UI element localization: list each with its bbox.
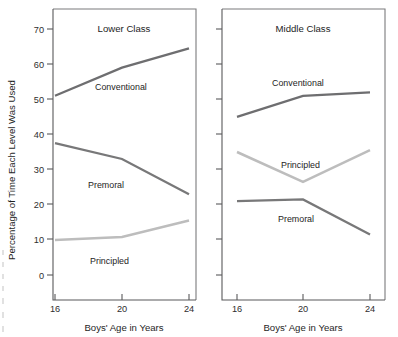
x-tick-labels-lower: 16 20 24 [50, 304, 194, 314]
y-tick-label: 30 [34, 165, 44, 175]
x-axis-title-middle: Boys' Age in Years [263, 322, 342, 333]
y-axis-title: Percentage of Time Each Level Was Used [6, 80, 17, 260]
panel-title-lower-class: Lower Class [98, 23, 151, 34]
y-tick-label: 50 [34, 95, 44, 105]
series-label-principled-middle: Principled [281, 160, 320, 170]
x-ticks-middle [237, 294, 370, 300]
x-tick-label: 24 [184, 304, 194, 314]
x-ticks-lower [55, 294, 189, 300]
y-tick-label: 20 [34, 200, 44, 210]
x-tick-label: 16 [232, 304, 242, 314]
scan-edge-artifacts [2, 250, 4, 332]
x-tick-label: 16 [50, 304, 60, 314]
series-label-conventional-lower: Conventional [95, 82, 147, 92]
x-axis-title-lower: Boys' Age in Years [84, 322, 163, 333]
series-line-conventional-middle [237, 92, 370, 117]
y-tick-label: 60 [34, 60, 44, 70]
panel-title-middle-class: Middle Class [276, 23, 331, 34]
x-tick-labels-middle: 16 20 24 [232, 304, 375, 314]
figure-container: Percentage of Time Each Level Was Used 7… [0, 0, 398, 337]
y-tick-label: 10 [34, 235, 44, 245]
series-label-premoral-middle: Premoral [278, 214, 314, 224]
chart-svg: Percentage of Time Each Level Was Used 7… [0, 0, 398, 337]
y-tick-labels-lower: 70 60 50 40 30 20 10 0 [34, 25, 44, 281]
panel-middle-class: 16 20 24 Middle Class Conventional Princ… [216, 9, 385, 333]
y-tick-label: 70 [34, 25, 44, 35]
y-ticks-middle [216, 29, 222, 275]
y-tick-label: 0 [39, 271, 44, 281]
series-label-principled-lower: Principled [90, 256, 129, 266]
x-tick-label: 24 [365, 304, 375, 314]
x-tick-label: 20 [117, 304, 127, 314]
x-tick-label: 20 [298, 304, 308, 314]
y-ticks-lower [47, 29, 53, 275]
series-label-premoral-lower: Premoral [88, 180, 124, 190]
series-line-principled-lower [55, 221, 189, 240]
panel-lower-class: 70 60 50 40 30 20 10 0 16 20 24 Lowe [34, 9, 196, 333]
series-label-conventional-middle: Conventional [272, 78, 324, 88]
y-tick-label: 40 [34, 130, 44, 140]
